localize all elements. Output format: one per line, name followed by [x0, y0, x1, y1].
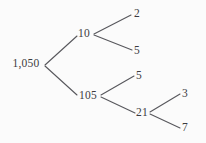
tree-node-leaf5a: 5	[134, 45, 140, 57]
factor-tree-diagram: 1,050101052552137	[0, 0, 206, 143]
tree-node-root: 1,050	[13, 58, 40, 70]
tree-node-n10: 10	[78, 28, 90, 40]
tree-node-leaf3: 3	[182, 88, 188, 100]
tree-edge-n105-to-n21	[101, 97, 135, 113]
tree-edge-n105-to-leaf5b	[101, 76, 134, 95]
tree-edge-layer	[0, 0, 206, 143]
tree-edge-n10-to-leaf2	[94, 15, 131, 34]
tree-node-n105: 105	[79, 90, 97, 102]
tree-edge-n21-to-leaf7	[150, 114, 180, 128]
tree-node-n21: 21	[136, 107, 148, 119]
tree-edge-root-to-n10	[45, 36, 77, 65]
tree-edge-root-to-n105	[45, 66, 77, 95]
tree-node-leaf7: 7	[182, 122, 188, 134]
tree-node-leaf2: 2	[134, 8, 140, 20]
tree-edge-n21-to-leaf3	[150, 94, 180, 112]
tree-edge-n10-to-leaf5a	[94, 35, 132, 50]
tree-node-leaf5b: 5	[136, 70, 142, 82]
